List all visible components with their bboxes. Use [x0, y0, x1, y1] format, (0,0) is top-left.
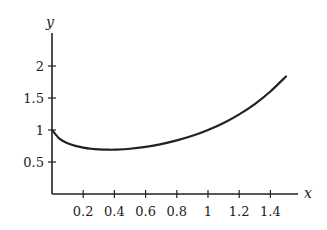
axes: x y — [45, 14, 312, 201]
y-tick-label: 0.5 — [23, 155, 44, 170]
x-tick-label: 1 — [204, 204, 212, 219]
data-series-curve — [52, 76, 286, 149]
x-tick-label: 0.2 — [73, 204, 94, 219]
x-tick-label: 0.4 — [104, 204, 125, 219]
chart: x y 0.20.40.60.811.21.4 0.511.52 — [0, 0, 327, 230]
x-tick-label: 0.6 — [135, 204, 156, 219]
x-axis-label: x — [304, 185, 312, 201]
y-axis-label: y — [45, 14, 55, 30]
x-tick-label: 1.4 — [260, 204, 281, 219]
y-tick-label: 1.5 — [23, 91, 44, 106]
x-tick-label: 0.8 — [166, 204, 187, 219]
y-tick-label: 1 — [36, 123, 44, 138]
y-tick-label: 2 — [36, 59, 44, 74]
x-tick-label: 1.2 — [229, 204, 250, 219]
y-ticks: 0.511.52 — [23, 59, 56, 170]
